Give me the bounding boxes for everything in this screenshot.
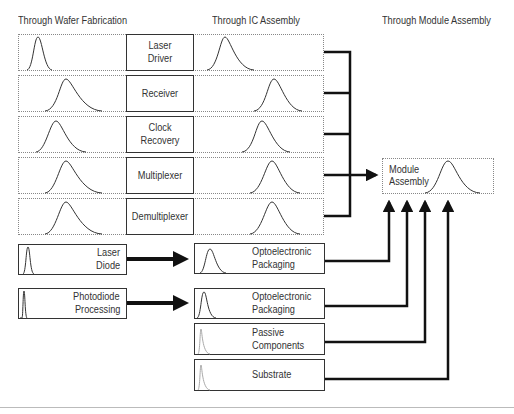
curve-passive [198, 329, 210, 354]
arrow-opto-pkg-1-to-module [325, 202, 389, 261]
curve-wafer-receiver [45, 79, 102, 111]
arrow-passive-to-module [325, 202, 425, 342]
diagram-graphics [0, 0, 514, 414]
curve-wafer-laser-driver [27, 37, 52, 70]
curve-wafer-mux [45, 161, 102, 193]
curve-ic-receiver [254, 79, 302, 111]
curve-module [425, 161, 480, 193]
arrow-opto-pkg-2-to-module [325, 202, 407, 306]
curve-ic-laser-driver [207, 37, 254, 70]
curve-ic-demux [250, 202, 300, 234]
curve-ic-clock [242, 121, 290, 152]
curve-opto-pkg-2 [197, 292, 216, 318]
curve-wafer-clock [36, 121, 86, 152]
curve-laser-diode [23, 247, 34, 274]
curve-opto-pkg-1 [200, 249, 226, 273]
curve-photodiode [20, 291, 27, 318]
arrow-substrate-to-module [325, 202, 448, 379]
curve-ic-mux [250, 161, 300, 193]
curve-wafer-demux [45, 202, 102, 234]
curve-substrate [198, 365, 210, 390]
bottom-divider [0, 407, 514, 408]
